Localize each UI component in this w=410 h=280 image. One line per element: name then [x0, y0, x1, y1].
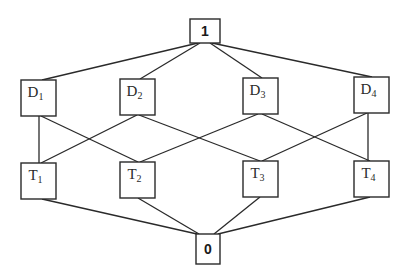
node-label-subscript: 4: [371, 172, 376, 183]
node-label-base: T: [361, 165, 370, 181]
edge-top-d1: [42, 43, 198, 80]
lattice-diagram: 1D1D2D3D4T1T2T3T40: [0, 0, 410, 280]
node-d3: D3: [243, 78, 278, 114]
node-label-subscript: 1: [38, 91, 43, 102]
node-label-subscript: 3: [260, 89, 265, 100]
node-label-base: T: [250, 165, 259, 181]
node-top: 1: [190, 19, 220, 43]
node-label-subscript: 4: [371, 88, 376, 99]
edge-top-d2: [140, 43, 200, 79]
node-d4: D4: [354, 77, 389, 113]
node-label-subscript: 3: [260, 172, 265, 183]
node-t1: T1: [21, 163, 56, 199]
node-t3: T3: [243, 161, 278, 197]
nodes-layer: 1D1D2D3D4T1T2T3T40: [21, 19, 389, 264]
edge-t2-bottom: [138, 198, 199, 234]
node-label-base: D: [250, 82, 261, 98]
edge-d3-t2: [140, 114, 258, 162]
node-d1: D1: [21, 80, 56, 116]
node-bottom: 0: [196, 234, 220, 264]
edge-t1-bottom: [42, 199, 197, 234]
node-label-subscript: 1: [38, 174, 43, 185]
node-t2: T2: [120, 162, 155, 198]
edge-t3-bottom: [214, 197, 260, 234]
node-label-base: T: [28, 167, 37, 183]
node-label-subscript: 2: [137, 90, 142, 101]
edges-layer: [39, 43, 372, 234]
node-label-base: D: [28, 84, 39, 100]
node-label: 0: [204, 241, 212, 257]
edge-t4-bottom: [218, 197, 370, 234]
node-label-subscript: 2: [137, 173, 142, 184]
node-d2: D2: [120, 79, 155, 115]
node-t4: T4: [354, 161, 389, 197]
node-label: 1: [201, 23, 209, 39]
node-label-base: T: [127, 166, 136, 182]
node-label-base: D: [361, 81, 372, 97]
node-label-base: D: [127, 83, 138, 99]
